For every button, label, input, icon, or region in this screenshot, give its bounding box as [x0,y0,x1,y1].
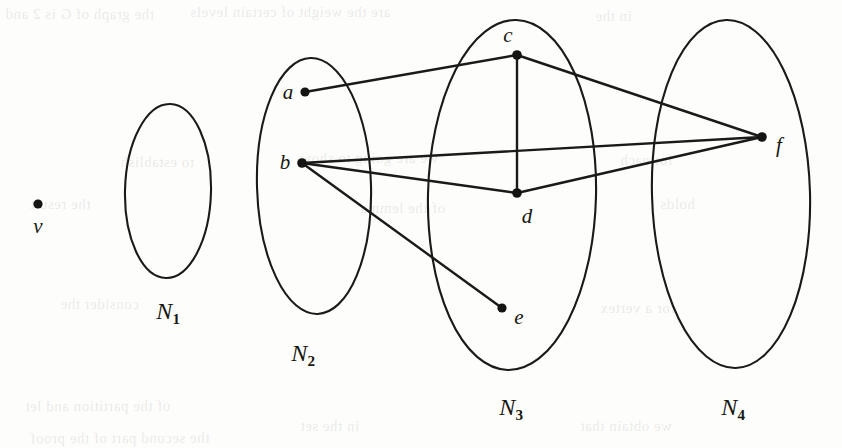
edge-c-f [517,55,762,137]
set-ellipse-n1 [123,103,213,279]
set-label-n3: N3 [499,395,523,419]
vertex-dot-f [757,132,767,142]
edge-a-c [305,55,517,92]
set-label-subscript: 4 [738,407,746,423]
edge-b-d [302,163,517,193]
set-label-base: N [291,340,307,366]
vertex-dot-a [300,87,309,96]
edge-b-f [302,137,762,163]
set-label-subscript: 1 [173,311,181,327]
vertex-dot-v [33,199,42,208]
set-ellipse-n2 [253,56,374,315]
vertex-dot-b [297,158,307,168]
vertex-label-b: b [280,152,291,173]
vertex-label-d: d [522,206,533,227]
set-label-n2: N2 [291,341,315,365]
set-label-subscript: 3 [516,407,524,423]
set-ellipse-n4 [647,18,815,370]
vertex-dot-e [497,303,506,312]
vertex-dot-c [512,50,522,60]
vertex-label-v: v [33,216,42,237]
set-boundary-layer [123,18,815,372]
vertex-label-e: e [514,307,523,328]
set-label-base: N [499,394,515,420]
set-label-subscript: 2 [308,353,316,369]
set-diagram-figure: the graph of G is 2 andare the weight of… [0,0,842,448]
set-label-n4: N4 [721,395,745,419]
vertex-label-f: f [776,135,782,156]
set-label-base: N [156,298,172,324]
vertex-dot-d [512,188,522,198]
vertex-label-c: c [503,25,512,46]
vertex-layer [33,50,766,312]
edge-b-e [302,163,502,308]
graph-canvas [0,0,842,448]
set-ellipse-n3 [424,18,601,372]
edge-d-f [517,137,762,193]
vertex-label-a: a [283,82,294,103]
set-label-n1: N1 [156,299,180,323]
set-label-base: N [721,394,737,420]
